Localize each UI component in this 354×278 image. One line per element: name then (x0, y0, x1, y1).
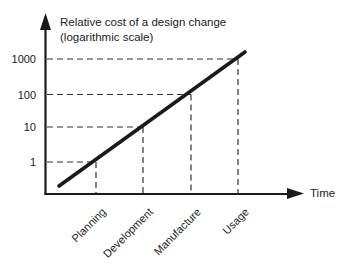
y-axis-title: Relative cost of a design change (60, 16, 226, 28)
category-planning: Planning (69, 206, 108, 245)
category-manufacture: Manufacture (151, 206, 203, 258)
horizontal-guides (47, 59, 238, 162)
y-tick-1000: 1000 (12, 53, 36, 65)
vertical-guides (96, 59, 238, 193)
category-usage: Usage (220, 206, 251, 237)
category-development: Development (101, 206, 155, 260)
x-axis-title: Time (310, 187, 335, 199)
y-axis-subtitle: (logarithmic scale) (60, 31, 153, 43)
cost-of-change-diagram: Relative cost of a design change (logari… (0, 0, 354, 278)
cost-trend-line (59, 52, 245, 186)
x-axis-arrow-icon (287, 188, 304, 199)
y-axis-arrow-icon (40, 13, 51, 30)
y-tick-10: 10 (24, 121, 36, 133)
y-tick-1: 1 (30, 156, 36, 168)
y-tick-100: 100 (18, 89, 36, 101)
